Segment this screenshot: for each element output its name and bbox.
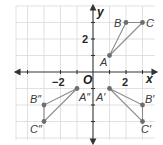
coordinate-plane: y x O −2 2 2 A B C A′ B′ C′ A″ B″ C″ bbox=[0, 0, 163, 145]
y-axis-down-arrow-icon bbox=[91, 139, 96, 144]
label-b-double-prime: B″ bbox=[30, 93, 42, 105]
point-a-prime bbox=[107, 86, 112, 91]
label-b-prime: B′ bbox=[145, 93, 155, 105]
point-c-double-prime bbox=[42, 119, 47, 124]
x-axis-label: x bbox=[145, 72, 154, 86]
x-tick-2: 2 bbox=[122, 76, 128, 88]
x-axis-right-arrow-icon bbox=[152, 70, 157, 75]
origin-label: O bbox=[83, 73, 93, 87]
triangle-a-prime: A′ B′ C′ bbox=[95, 86, 155, 135]
y-tick-2: 2 bbox=[82, 33, 88, 45]
point-c bbox=[140, 20, 145, 25]
label-a-prime: A′ bbox=[95, 91, 106, 103]
point-b-double-prime bbox=[42, 103, 47, 108]
label-c-double-prime: C″ bbox=[30, 123, 43, 135]
x-tick-neg2: −2 bbox=[52, 76, 65, 88]
point-b bbox=[124, 20, 129, 25]
label-a: A bbox=[99, 56, 107, 68]
point-a bbox=[107, 53, 112, 58]
label-a-double-prime: A″ bbox=[78, 91, 91, 103]
label-c-prime: C′ bbox=[141, 123, 152, 135]
label-c: C bbox=[146, 17, 154, 29]
label-b: B bbox=[114, 17, 121, 29]
y-axis-label: y bbox=[96, 5, 105, 19]
triangle-abc: A B C bbox=[99, 17, 154, 68]
